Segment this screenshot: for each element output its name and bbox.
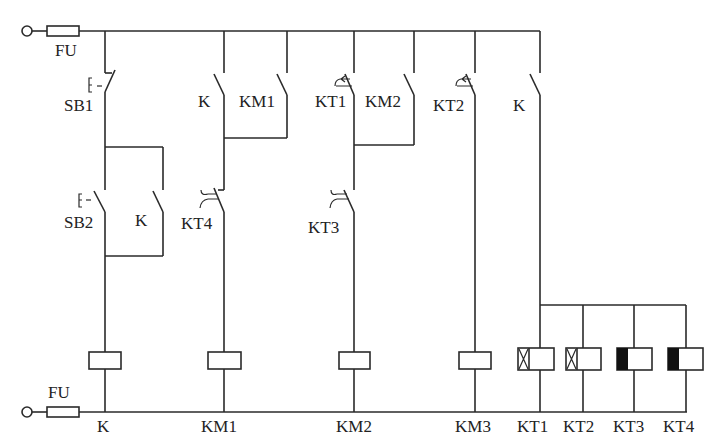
k-timers-contact — [530, 74, 540, 95]
coil-k-label: K — [97, 417, 110, 436]
km2-hold-contact — [404, 74, 414, 95]
fuse-bottom-label: FU — [48, 383, 70, 402]
circuit-diagram: FU FU SB1 SB2 K K — [0, 0, 723, 447]
kt3-label: KT3 — [308, 218, 339, 237]
kt1-label: KT1 — [315, 92, 346, 111]
kt1-contact — [345, 74, 354, 95]
sb2-contact — [94, 191, 105, 212]
km2-hold-label: KM2 — [365, 92, 401, 111]
fuse-top-label: FU — [55, 41, 77, 60]
k-timers-label: K — [513, 96, 526, 115]
k-hold-label: K — [135, 211, 148, 230]
rung-km1: K KM1 KT4 KM1 — [181, 31, 287, 436]
rung-km2: KT1 KM2 KT3 KM2 — [308, 31, 414, 436]
k-contact-km1 — [214, 74, 224, 95]
top-supply: FU — [22, 26, 540, 60]
coil-km3 — [459, 352, 491, 369]
km1-hold-label: KM1 — [239, 92, 275, 111]
terminal-bottom — [22, 407, 32, 417]
kt3-contact — [344, 190, 354, 212]
coil-km1 — [208, 352, 241, 369]
k-hold-contact — [153, 191, 163, 212]
off-delay-icon — [617, 348, 628, 370]
coil-km1-label: KM1 — [201, 417, 237, 436]
off-delay-icon — [668, 348, 679, 370]
fuse-top — [47, 26, 79, 36]
coil-kt1-label: KT1 — [517, 417, 548, 436]
sb1-label: SB1 — [64, 96, 93, 115]
coil-kt4-label: KT4 — [663, 417, 695, 436]
kt4-contact — [214, 188, 224, 212]
fuse-bottom — [47, 407, 79, 417]
sb2-label: SB2 — [64, 213, 93, 232]
coil-kt3-label: KT3 — [613, 417, 644, 436]
coil-km2-label: KM2 — [336, 417, 372, 436]
coil-kt2-label: KT2 — [563, 417, 594, 436]
rung-timers: K KT1 KT2 KT3 KT4 — [513, 31, 703, 436]
pushbutton-icon — [89, 78, 92, 92]
rung-k: SB1 SB2 K K — [64, 31, 163, 436]
kt4-label: KT4 — [181, 214, 213, 233]
rung-km3: KT2 KM3 — [433, 31, 491, 436]
km1-hold-contact — [277, 74, 287, 95]
kt2-label: KT2 — [433, 96, 464, 115]
terminal-top — [22, 26, 32, 36]
pushbutton-icon — [79, 194, 82, 207]
k-km1-label: K — [198, 92, 211, 111]
coil-k — [89, 352, 121, 369]
delay-icon — [330, 190, 349, 208]
kt2-contact — [466, 74, 475, 95]
coil-km3-label: KM3 — [455, 417, 491, 436]
coil-km2 — [339, 352, 370, 369]
